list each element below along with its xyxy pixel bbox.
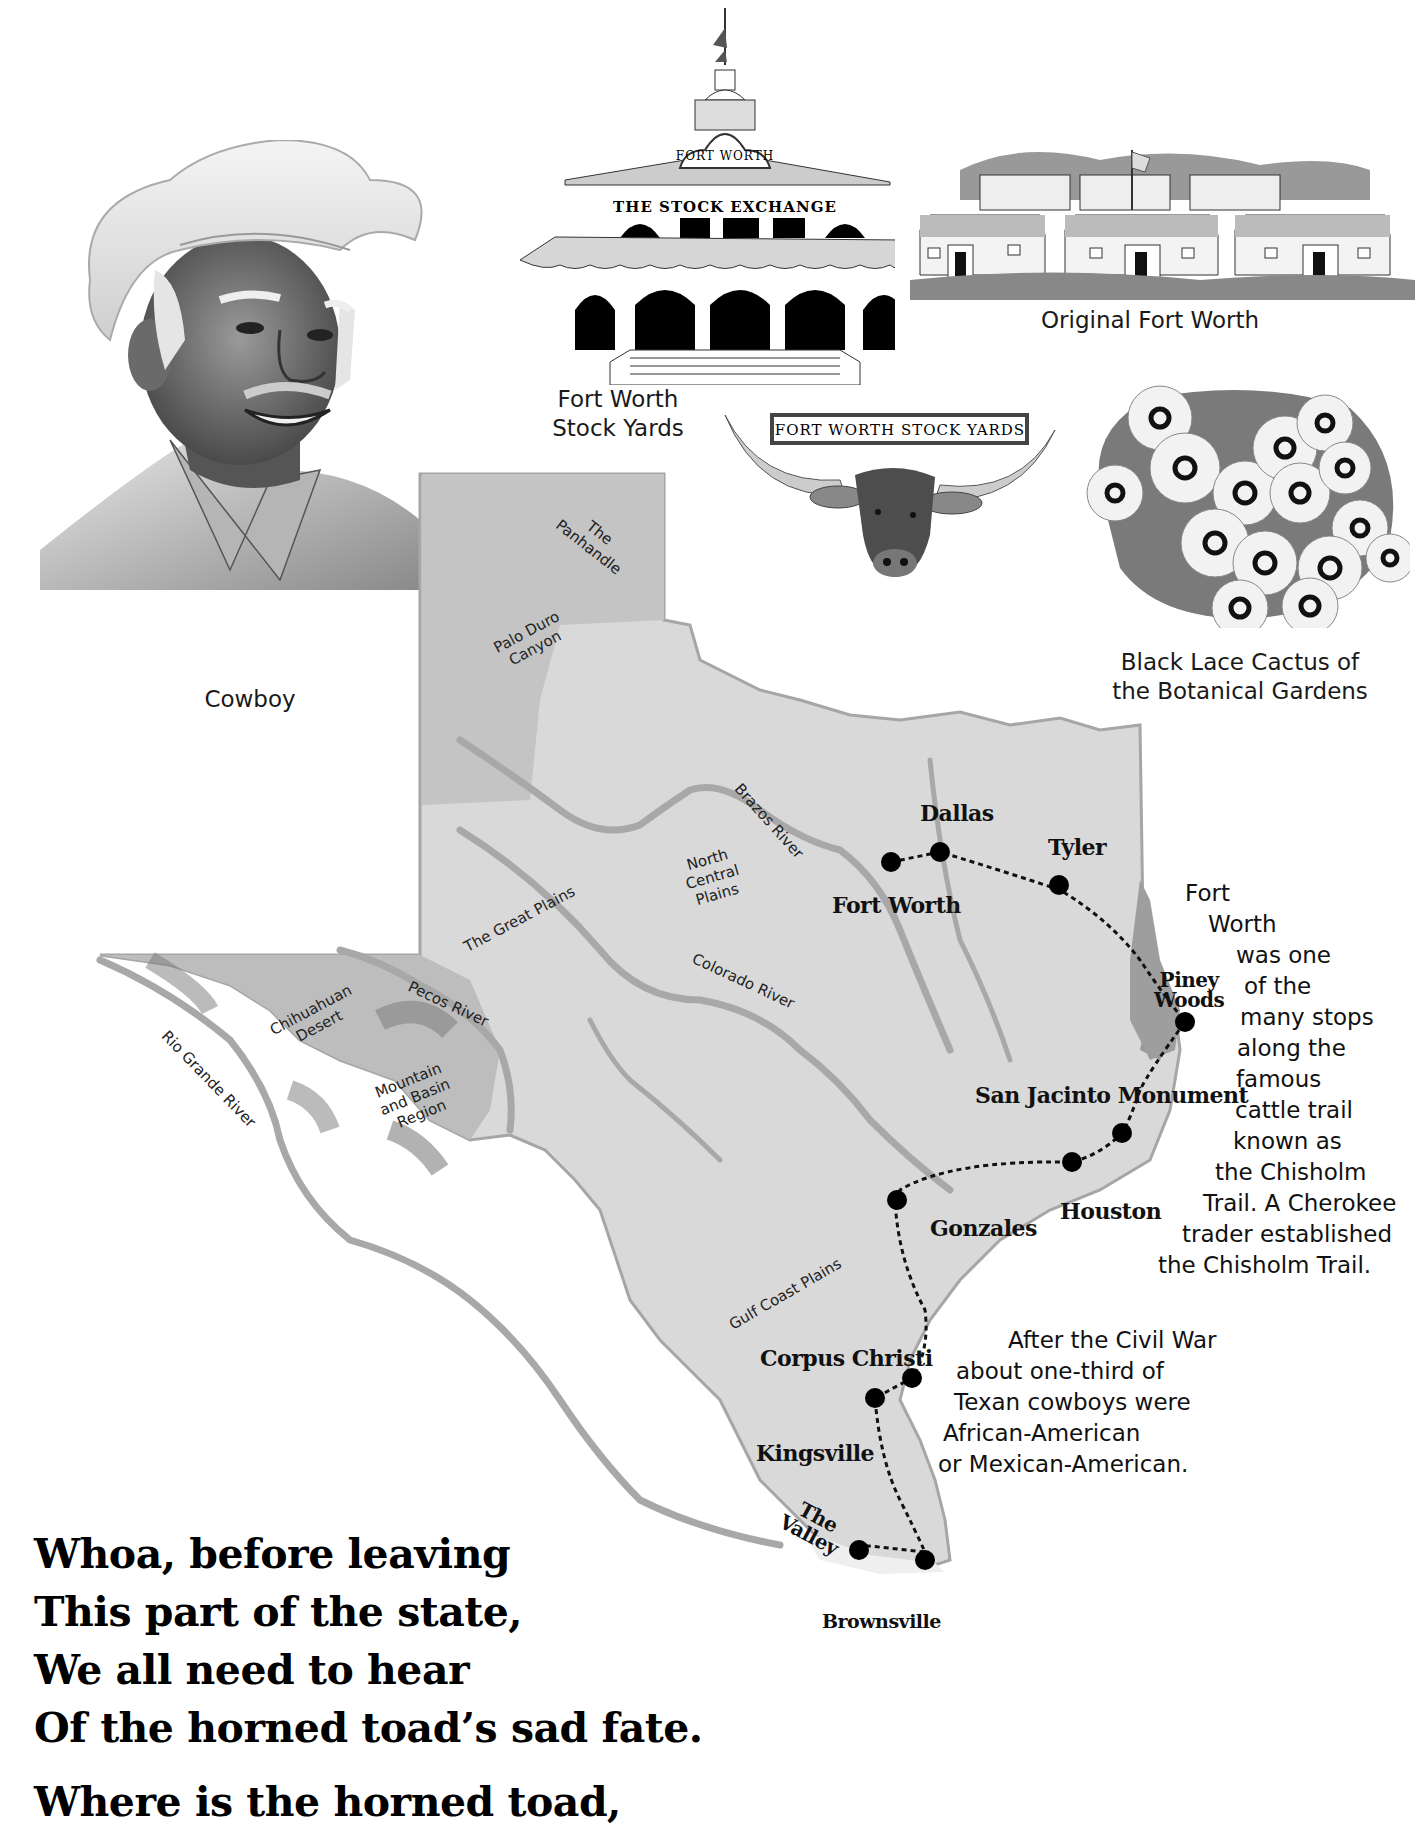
stock-yards-caption: Fort Worth Stock Yards bbox=[528, 385, 708, 443]
stop-houston bbox=[1062, 1152, 1082, 1172]
note-line: Worth bbox=[1208, 909, 1420, 940]
label-great-plains: The Great Plains bbox=[461, 882, 578, 956]
cactus-caption: Black Lace Cactus of the Botanical Garde… bbox=[1090, 648, 1390, 706]
cowboy-illustration bbox=[20, 140, 440, 680]
note-line: cattle trail bbox=[1235, 1095, 1420, 1126]
label-north-central-plains: North Central Plains bbox=[679, 844, 746, 911]
stop-brownsville bbox=[915, 1550, 935, 1570]
stop-gonzales bbox=[887, 1190, 907, 1210]
label-palo-duro: Palo Duro Canyon bbox=[491, 607, 571, 672]
longhorn-head-icon: FORT WORTH STOCK YARDS bbox=[720, 405, 1060, 585]
stop-fort-worth bbox=[881, 852, 901, 872]
stop-dallas bbox=[930, 842, 950, 862]
cowboy-portrait-icon bbox=[20, 140, 440, 680]
stop-corpus-christi bbox=[902, 1368, 922, 1388]
note-line: was one bbox=[1236, 940, 1420, 971]
poem-line: Where is the horned toad, bbox=[34, 1773, 774, 1829]
label-panhandle: The Panhandle bbox=[552, 502, 636, 579]
original-fort-worth-caption: Original Fort Worth bbox=[1000, 306, 1300, 335]
label-colorado-river: Colorado River bbox=[689, 949, 797, 1012]
chisholm-trail-note: Fort Worth was one of the many stops alo… bbox=[1090, 878, 1420, 1281]
label-the-valley: The Valley bbox=[776, 1494, 851, 1559]
city-tyler: Tyler bbox=[1048, 834, 1106, 860]
city-gonzales: Gonzales bbox=[930, 1215, 1037, 1241]
stock-yards-sign-text: FORT WORTH STOCK YARDS bbox=[775, 421, 1025, 439]
label-pecos-river: Pecos River bbox=[405, 978, 491, 1031]
note-line: Trail. A Cherokee bbox=[1203, 1188, 1420, 1219]
city-brownsville: Brownsville bbox=[822, 1610, 941, 1632]
stock-exchange-building-icon: FORT WORTH THE STOCK EXCHANGE bbox=[495, 0, 895, 385]
note-line: or Mexican-American. bbox=[938, 1449, 1268, 1480]
note-line: along the bbox=[1237, 1033, 1420, 1064]
longhorn-illustration: FORT WORTH STOCK YARDS bbox=[720, 405, 1060, 585]
label-chihuahuan-desert: Chihuahuan Desert bbox=[267, 981, 363, 1055]
city-fort-worth: Fort Worth bbox=[832, 892, 961, 918]
note-line: the Chisholm bbox=[1215, 1157, 1420, 1188]
poem-line: Of the horned toad’s sad fate. bbox=[34, 1699, 774, 1757]
note-line: famous bbox=[1236, 1064, 1420, 1095]
stop-tyler bbox=[1049, 875, 1069, 895]
note-line: After the Civil War bbox=[1008, 1325, 1268, 1356]
note-line: about one-third of bbox=[956, 1356, 1268, 1387]
note-line: of the bbox=[1244, 971, 1420, 1002]
label-rio-grande-river: Rio Grande River bbox=[158, 1027, 259, 1131]
note-line: many stops bbox=[1240, 1002, 1420, 1033]
poem: Whoa, before leaving This part of the st… bbox=[34, 1525, 774, 1829]
note-line: Texan cowboys were bbox=[954, 1387, 1268, 1418]
cactus-flowers-icon bbox=[1060, 368, 1410, 628]
city-dallas: Dallas bbox=[920, 800, 994, 826]
cowboy-caption: Cowboy bbox=[150, 685, 350, 714]
note-line: African-American bbox=[943, 1418, 1268, 1449]
label-mountain-basin: Mountain and Basin Region bbox=[371, 1058, 460, 1136]
poem-line: Whoa, before leaving bbox=[34, 1525, 774, 1583]
label-gulf-coast-plains: Gulf Coast Plains bbox=[726, 1255, 845, 1334]
fort-buildings-icon bbox=[900, 140, 1415, 300]
poem-line: We all need to hear bbox=[34, 1641, 774, 1699]
stop-kingsville bbox=[865, 1388, 885, 1408]
note-line: Fort bbox=[1185, 878, 1420, 909]
city-corpus-christi: Corpus Christi bbox=[760, 1345, 933, 1371]
fort-worth-arch-label: FORT WORTH bbox=[676, 149, 774, 163]
stock-yards-caption-line2: Stock Yards bbox=[528, 414, 708, 443]
stock-yards-caption-line1: Fort Worth bbox=[528, 385, 708, 414]
poem-line: This part of the state, bbox=[34, 1583, 774, 1641]
note-line: known as bbox=[1233, 1126, 1420, 1157]
city-kingsville: Kingsville bbox=[756, 1440, 874, 1466]
label-brazos-river: Brazos River bbox=[731, 780, 807, 862]
stop-the-valley bbox=[849, 1540, 869, 1560]
stock-exchange-label: THE STOCK EXCHANGE bbox=[613, 198, 837, 216]
rio-grande-river bbox=[100, 960, 780, 1545]
note-line: trader established bbox=[1182, 1219, 1420, 1250]
cactus-illustration bbox=[1060, 368, 1410, 628]
cactus-caption-line2: the Botanical Gardens bbox=[1090, 677, 1390, 706]
original-fort-worth-illustration bbox=[900, 140, 1415, 300]
cactus-caption-line1: Black Lace Cactus of bbox=[1090, 648, 1390, 677]
stock-exchange-illustration: FORT WORTH THE STOCK EXCHANGE bbox=[495, 0, 895, 385]
note-line: the Chisholm Trail. bbox=[1158, 1250, 1420, 1281]
civil-war-note: After the Civil War about one-third of T… bbox=[938, 1325, 1268, 1480]
